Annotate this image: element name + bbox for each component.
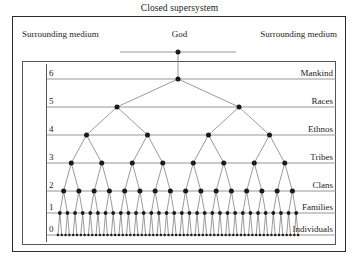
tree-edge — [94, 163, 102, 191]
node-individuals — [202, 234, 205, 237]
node-families — [180, 211, 184, 215]
node-individuals — [167, 234, 170, 237]
tree-edge — [148, 135, 163, 163]
node-families — [119, 211, 123, 215]
node-families — [81, 211, 85, 215]
tree-edge — [121, 213, 123, 235]
node-families — [188, 211, 192, 215]
tree-edge — [180, 213, 182, 235]
node-individuals — [148, 234, 151, 237]
tree-edge — [266, 213, 268, 235]
tree-edge — [243, 213, 245, 235]
tree-edge — [125, 163, 133, 191]
node-individuals — [263, 234, 266, 237]
node-tribes — [221, 161, 226, 166]
node-families — [58, 211, 62, 215]
tree-edge — [83, 213, 85, 235]
tree-edge — [106, 213, 108, 235]
tree-edge — [247, 163, 255, 191]
tree-edge — [142, 213, 144, 235]
node-individuals — [57, 234, 60, 237]
tree-edge — [117, 107, 148, 135]
node-families — [149, 211, 153, 215]
tree-edge — [209, 135, 224, 163]
tree-edge — [109, 191, 113, 213]
node-individuals — [72, 234, 75, 237]
tree-edge — [121, 191, 125, 213]
node-individuals — [278, 234, 281, 237]
node-races — [237, 105, 242, 110]
tree-edge — [201, 191, 205, 213]
node-families — [203, 211, 207, 215]
node-ethnos — [267, 133, 272, 138]
level-gridline-group — [47, 52, 336, 235]
node-mankind — [176, 77, 181, 82]
tree-edge — [165, 213, 167, 235]
node-tribes — [191, 161, 196, 166]
node-individuals — [198, 234, 201, 237]
tree-edge — [256, 213, 258, 235]
tree-edge — [174, 213, 176, 235]
node-individuals — [95, 234, 98, 237]
node-tribes — [69, 161, 74, 166]
node-individuals — [228, 234, 231, 237]
tree-edge — [254, 163, 262, 191]
node-individuals — [110, 234, 113, 237]
tree-edge — [216, 163, 224, 191]
node-individuals — [80, 234, 83, 237]
tree-edge — [262, 191, 266, 213]
node-families — [165, 211, 169, 215]
tree-edge — [66, 213, 68, 235]
tree-edge — [111, 213, 113, 235]
node-families — [279, 211, 283, 215]
node-individuals — [270, 234, 273, 237]
tree-edge — [132, 135, 147, 163]
node-ethnos — [206, 133, 211, 138]
tree-edge — [151, 213, 153, 235]
node-individuals — [293, 234, 296, 237]
tree-edge — [294, 213, 296, 235]
node-clans — [168, 189, 173, 194]
tree-edge — [241, 213, 243, 235]
node-clans — [183, 189, 188, 194]
tree-edge — [228, 191, 232, 213]
tree-edge — [250, 213, 252, 235]
tree-edge — [193, 163, 201, 191]
node-individuals — [64, 234, 67, 237]
node-individuals — [289, 234, 292, 237]
tree-edge — [188, 213, 190, 235]
tree-edge — [75, 191, 79, 213]
tree-edge — [228, 213, 230, 235]
tree-edge — [159, 213, 161, 235]
node-individuals — [285, 234, 288, 237]
node-clans — [275, 189, 280, 194]
node-individuals — [251, 234, 254, 237]
tree-edge — [119, 213, 121, 235]
node-individuals — [259, 234, 262, 237]
tree-edge — [113, 213, 115, 235]
node-individuals — [141, 234, 144, 237]
node-individuals — [182, 234, 185, 237]
tree-edge — [117, 79, 178, 107]
tree-edge — [167, 191, 171, 213]
node-individuals — [186, 234, 189, 237]
node-families — [233, 211, 237, 215]
node-individuals — [194, 234, 197, 237]
tree-edge — [102, 163, 110, 191]
tree-edge — [125, 191, 129, 213]
hierarchy-tree-svg — [0, 0, 359, 270]
node-families — [88, 211, 92, 215]
tree-edge — [155, 191, 159, 213]
node-individuals — [114, 234, 117, 237]
node-individuals — [274, 234, 277, 237]
tree-edge — [220, 213, 222, 235]
tree-edge — [186, 191, 190, 213]
figure-closed-supersystem: Closed supersystem Surrounding medium Su… — [0, 0, 359, 270]
tree-edge — [155, 163, 163, 191]
tree-edge — [151, 191, 155, 213]
tree-edge — [60, 191, 64, 213]
node-families — [73, 211, 77, 215]
node-individuals — [297, 234, 300, 237]
node-families — [264, 211, 268, 215]
tree-edge — [289, 191, 293, 213]
